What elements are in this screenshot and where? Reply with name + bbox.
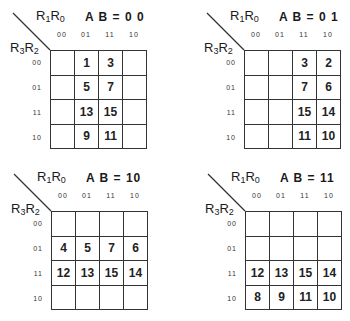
grid-cell [100,212,124,237]
column-header: 00 [50,31,74,38]
grid-cell: 7 [99,75,123,100]
grid-cell [52,285,76,310]
row-header: 11 [216,109,236,116]
column-header: 01 [269,192,293,199]
grid-row: 1514 [245,100,341,125]
grid-cell: 9 [75,124,99,149]
row-header: 10 [217,295,237,302]
column-header: 01 [268,31,292,38]
kmap-ab-00: R1R0R3R2A B = 0 000011110000111101357131… [0,0,175,160]
row-header: 01 [216,84,236,91]
grid-cell: 11 [293,124,317,149]
row-header: 10 [22,134,42,141]
grid-cell: 4 [52,236,76,261]
grid-row [246,236,342,261]
grid-cell [51,124,75,149]
grid-cell [269,124,293,149]
grid-cell: 5 [75,75,99,100]
grid-cell [124,285,148,310]
grid-row: 1110 [245,124,341,149]
grid-cell [269,100,293,125]
column-header: 00 [244,31,268,38]
column-header: 10 [316,31,340,38]
row-variable-label: R3R2 [204,40,233,56]
grid-cell [269,75,293,100]
grid-cell: 13 [76,261,100,286]
grid-cell: 15 [293,100,317,125]
grid-cell [76,285,100,310]
row-header: 10 [23,295,43,302]
grid-cell: 14 [124,261,148,286]
column-header: 10 [317,192,341,199]
grid-cell: 12 [52,261,76,286]
grid-cell [51,100,75,125]
column-header: 11 [293,192,317,199]
row-variable-label: R3R2 [205,201,234,217]
grid-cell: 13 [75,100,99,125]
grid-cell: 1 [75,51,99,76]
column-header: 00 [245,192,269,199]
grid-cell [100,285,124,310]
column-variable-label: R1R0 [230,8,259,24]
grid-cell [245,51,269,76]
row-variable-label: R3R2 [10,40,39,56]
grid-cell [318,236,342,261]
grid-cell: 15 [100,261,124,286]
row-header: 11 [22,109,42,116]
grid-row: 911 [51,124,147,149]
grid-cell: 15 [294,261,318,286]
grid-row [246,212,342,237]
grid-cell: 6 [124,236,148,261]
column-variable-label: R1R0 [36,8,65,24]
grid-row: 32 [245,51,341,76]
grid-cell: 14 [318,261,342,286]
grid-row: 57 [51,75,147,100]
grid-cell [51,75,75,100]
grid-row [52,285,148,310]
column-header: 10 [123,192,147,199]
grid-cell [51,51,75,76]
grid-cell [123,124,147,149]
column-header: 11 [98,31,122,38]
grid-row: 12131514 [52,261,148,286]
grid-cell [318,212,342,237]
grid-row: 4576 [52,236,148,261]
row-header: 01 [23,245,43,252]
grid-cell [124,212,148,237]
grid-cell: 5 [76,236,100,261]
kmap-grid: 457612131514 [51,211,148,310]
grid-cell: 7 [100,236,124,261]
map-title: A B = 10 [86,171,141,185]
kmap-grid: 13571315911 [50,50,147,149]
grid-cell [270,212,294,237]
grid-cell [245,100,269,125]
grid-cell [52,212,76,237]
grid-cell: 6 [317,75,341,100]
grid-cell: 12 [246,261,270,286]
grid-cell [294,212,318,237]
grid-cell: 15 [99,100,123,125]
kmap-ab-10: R1R0R3R2A B = 10000111100001111045761213… [1,161,176,321]
grid-cell [76,212,100,237]
grid-cell [123,100,147,125]
row-header: 01 [217,245,237,252]
grid-cell: 11 [294,285,318,310]
grid-cell [246,212,270,237]
grid-cell: 10 [317,124,341,149]
row-header: 00 [217,220,237,227]
row-header: 01 [22,84,42,91]
row-header: 00 [23,220,43,227]
column-header: 01 [74,31,98,38]
kmap-grid: 12131514891110 [245,211,342,310]
grid-cell: 7 [293,75,317,100]
grid-cell [246,236,270,261]
grid-row: 891110 [246,285,342,310]
grid-cell [270,236,294,261]
grid-row: 1315 [51,100,147,125]
map-title: A B = 11 [280,171,335,185]
column-header: 00 [51,192,75,199]
grid-cell [245,124,269,149]
column-variable-label: R1R0 [231,169,260,185]
grid-cell [123,75,147,100]
map-title: A B = 0 0 [85,10,145,24]
